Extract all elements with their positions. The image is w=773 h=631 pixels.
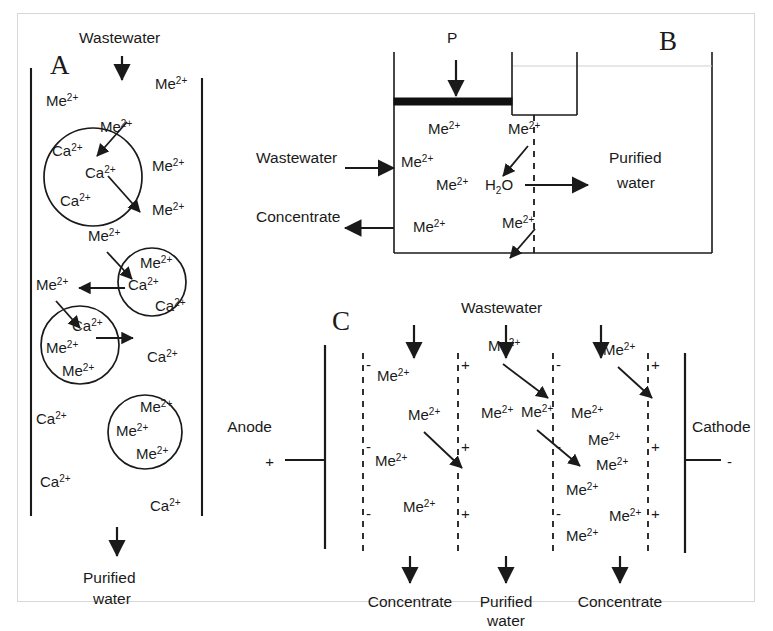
ion-label-me: Me2+: [436, 176, 468, 193]
ion-label-me: Me2+: [152, 157, 184, 174]
migration-arrow: [618, 367, 652, 398]
ion-label-ca: Ca2+: [36, 410, 67, 427]
panel-c-feed-label: Wastewater: [461, 299, 542, 316]
panel-a-outlet-label-2: water: [92, 590, 131, 607]
ion-label-me: Me2+: [152, 201, 184, 218]
panel-a-outlet-label-1: Purified: [83, 569, 136, 586]
membrane-sign: -: [556, 505, 561, 522]
ion-label-me: Me2+: [428, 120, 460, 137]
membrane-sign: -: [366, 356, 371, 373]
panel-b-ion-labels: Me2+Me2+Me2+Me2+Me2+Me2+: [401, 120, 540, 235]
ion-label-me: Me2+: [566, 527, 598, 544]
ion-label-ca: Ca2+: [52, 142, 83, 159]
membrane-sign: +: [461, 505, 470, 522]
ion-label-ca: Ca2+: [147, 348, 178, 365]
ion-label-me: Me2+: [521, 403, 553, 420]
panel-c-anode-sign: +: [265, 453, 274, 470]
ion-label-me: Me2+: [140, 398, 172, 415]
panel-b-reject-label: Concentrate: [256, 208, 340, 225]
ion-label-me: Me2+: [609, 507, 641, 524]
ion-label-me: Me2+: [46, 92, 78, 109]
migration-arrow: [503, 364, 548, 398]
panel-c-outlet-label-1: Purified: [480, 593, 533, 610]
ion-label-me: Me2+: [408, 406, 440, 423]
membrane-sign: +: [651, 438, 660, 455]
ion-label-me: Me2+: [100, 118, 132, 135]
panel-b-rejected-ion-arrow: [503, 146, 528, 176]
panel-b-permeate-label-1: Purified: [609, 149, 662, 166]
membrane-sign: -: [556, 356, 561, 373]
ion-label-ca: Ca2+: [72, 317, 103, 334]
membrane-sign: -: [366, 438, 371, 455]
panel-c-letter: C: [332, 306, 350, 336]
panel-b-water-label: H2O: [485, 176, 513, 196]
membrane-sign: +: [461, 356, 470, 373]
ion-label-ca: Ca2+: [150, 497, 181, 514]
ion-label-me: Me2+: [508, 120, 540, 137]
panel-c: C Wastewater Anode + Cathode - ---+++---…: [227, 299, 750, 629]
membrane-sign: -: [366, 505, 371, 522]
ion-label-me: Me2+: [588, 431, 620, 448]
ion-label-me: Me2+: [36, 276, 68, 293]
ion-label-me: Me2+: [403, 498, 435, 515]
membrane-sign: +: [651, 356, 660, 373]
figure-container: A Wastewater Me2+Me2+Me2+Me2+Me2+Me2+Me2…: [0, 0, 773, 631]
ion-label-me: Me2+: [502, 214, 534, 231]
migration-arrow: [424, 432, 462, 468]
ion-label-me: Me2+: [116, 422, 148, 439]
panel-c-anode-label: Anode: [227, 418, 272, 435]
ion-label-ca: Ca2+: [155, 297, 186, 314]
panel-a: A Wastewater Me2+Me2+Me2+Me2+Me2+Me2+Me2…: [31, 29, 202, 607]
panel-b-pressure-label: P: [447, 29, 457, 46]
ion-label-ca: Ca2+: [40, 473, 71, 490]
ion-out-arrow: [108, 176, 140, 212]
migration-arrow: [537, 430, 580, 466]
ion-label-me: Me2+: [488, 337, 520, 354]
ion-label-me: Me2+: [136, 445, 168, 462]
panel-c-cathode-label: Cathode: [692, 418, 751, 435]
panel-c-outlet-label-1b: water: [486, 612, 525, 629]
ion-label-ca: Ca2+: [60, 192, 91, 209]
panel-c-outlets: Concentrate Purified water Concentrate: [368, 556, 662, 629]
ion-label-me: Me2+: [603, 341, 635, 358]
diagram-canvas: A Wastewater Me2+Me2+Me2+Me2+Me2+Me2+Me2…: [0, 0, 773, 631]
panel-b: B P Wastewater Concentrate H2O Purified …: [256, 26, 712, 258]
panel-b-letter: B: [659, 26, 677, 56]
panel-c-outlet-label-0: Concentrate: [368, 593, 452, 610]
panel-b-feed-label: Wastewater: [256, 149, 337, 166]
ion-label-me: Me2+: [481, 404, 513, 421]
ion-label-me: Me2+: [596, 456, 628, 473]
ion-label-me: Me2+: [88, 227, 120, 244]
ion-label-me: Me2+: [401, 153, 433, 170]
ion-label-me: Me2+: [62, 362, 94, 379]
ion-label-me: Me2+: [566, 481, 598, 498]
panel-b-piston: [394, 98, 512, 105]
panel-a-inlet-label: Wastewater: [79, 29, 160, 46]
membrane-sign: +: [651, 505, 660, 522]
ion-label-me: Me2+: [140, 254, 172, 271]
ion-label-me: Me2+: [377, 367, 409, 384]
membrane-sign: +: [461, 438, 470, 455]
panel-b-permeate-label-2: water: [616, 174, 655, 191]
ion-label-me: Me2+: [155, 75, 187, 92]
ion-label-me: Me2+: [375, 452, 407, 469]
ion-label-me: Me2+: [571, 404, 603, 421]
panel-a-letter: A: [50, 50, 70, 80]
ion-label-me: Me2+: [46, 339, 78, 356]
panel-c-outlet-label-2: Concentrate: [578, 593, 662, 610]
panel-c-cathode-sign: -: [727, 453, 732, 470]
ion-label-me: Me2+: [413, 218, 445, 235]
ion-label-ca: Ca2+: [128, 276, 159, 293]
